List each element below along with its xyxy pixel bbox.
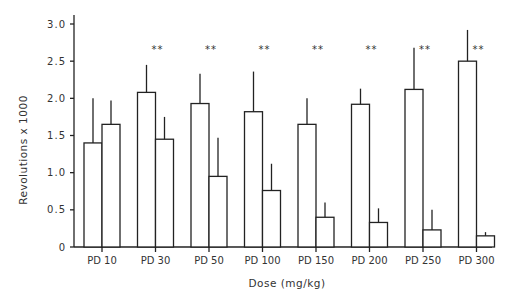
bar-right — [423, 230, 441, 247]
y-tick-label: 0.5 — [47, 204, 66, 215]
y-tick-label: 1.5 — [47, 130, 66, 141]
bar-left — [459, 61, 477, 247]
significance-marker: ** — [152, 44, 164, 55]
y-tick-label: 0 — [59, 242, 66, 253]
x-tick-label: PD 50 — [194, 255, 224, 266]
bar-left — [84, 143, 102, 247]
bar-right — [209, 176, 227, 247]
bar-left — [245, 112, 263, 247]
x-tick-label: PD 150 — [298, 255, 334, 266]
significance-marker: ** — [366, 44, 378, 55]
significance-marker: ** — [259, 44, 271, 55]
significance-marker: ** — [473, 44, 485, 55]
y-tick-label: 1.0 — [47, 167, 66, 178]
y-tick-label: 3.0 — [47, 19, 66, 30]
bar-left — [352, 104, 370, 247]
bar-chart: 00.51.01.52.02.53.0PD 10PD 30**PD 50**PD… — [0, 0, 510, 303]
y-tick-label: 2.5 — [47, 56, 66, 67]
x-tick-label: PD 100 — [245, 255, 281, 266]
bar-left — [138, 92, 156, 247]
x-tick-label: PD 10 — [87, 255, 117, 266]
bars — [84, 30, 495, 247]
x-tick-label: PD 200 — [352, 255, 388, 266]
bar-right — [316, 217, 334, 247]
y-axis-title: Revolutions x 1000 — [17, 95, 29, 205]
bar-right — [263, 191, 281, 247]
bar-right — [156, 139, 174, 247]
significance-marker: ** — [312, 44, 324, 55]
x-tick-label: PD 30 — [141, 255, 171, 266]
bar-left — [405, 89, 423, 247]
bar-left — [191, 104, 209, 247]
x-tick-label: PD 250 — [405, 255, 441, 266]
x-tick-label: PD 300 — [459, 255, 495, 266]
bar-right — [370, 222, 388, 247]
bar-left — [298, 124, 316, 247]
bar-right — [477, 236, 495, 247]
bar-right — [102, 124, 120, 247]
significance-marker: ** — [205, 44, 217, 55]
significance-marker: ** — [419, 44, 431, 55]
y-tick-label: 2.0 — [47, 93, 66, 104]
x-axis-title: Dose (mg/kg) — [248, 277, 325, 289]
